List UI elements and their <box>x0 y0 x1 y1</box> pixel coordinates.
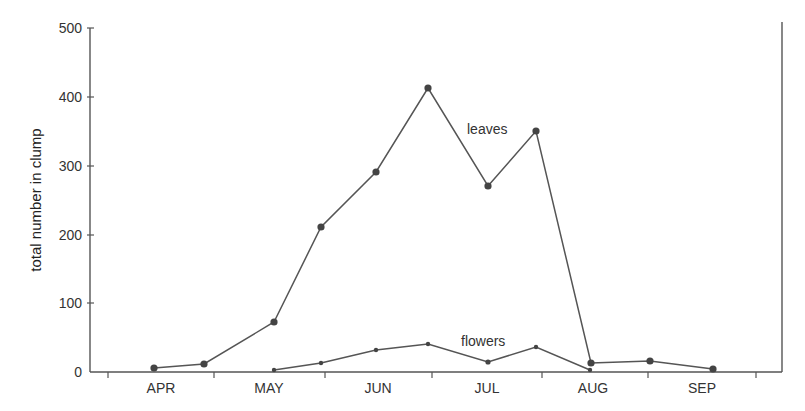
month-label: SEP <box>688 380 716 396</box>
y-axis-label: total number in clump <box>27 128 44 271</box>
y-tick-label: 300 <box>59 158 83 174</box>
flowers-label: flowers <box>461 333 505 349</box>
leaves-line <box>154 88 713 369</box>
y-tick-label: 200 <box>59 227 83 243</box>
y-tick-label: 500 <box>59 20 83 36</box>
x-tick-labels: APR MAY JUN JUL AUG SEP <box>147 380 716 396</box>
y-tick-labels: 0 100 200 300 400 500 <box>59 20 83 380</box>
line-chart: total number in clump 0 100 200 300 400 … <box>0 0 805 411</box>
chart-canvas: 0 100 200 300 400 500 APR MAY JUN JUL AU… <box>0 0 805 411</box>
month-label: AUG <box>578 380 608 396</box>
y-tick-label: 400 <box>59 89 83 105</box>
month-label: APR <box>147 380 176 396</box>
y-tick-label: 100 <box>59 295 83 311</box>
month-label: MAY <box>254 380 284 396</box>
leaves-label: leaves <box>467 121 507 137</box>
x-ticks <box>108 372 756 378</box>
flowers-markers <box>272 342 592 372</box>
leaves-markers <box>150 84 716 372</box>
month-label: JUN <box>364 380 391 396</box>
month-label: JUL <box>475 380 500 396</box>
y-tick-label: 0 <box>74 364 82 380</box>
flowers-line <box>274 344 590 370</box>
